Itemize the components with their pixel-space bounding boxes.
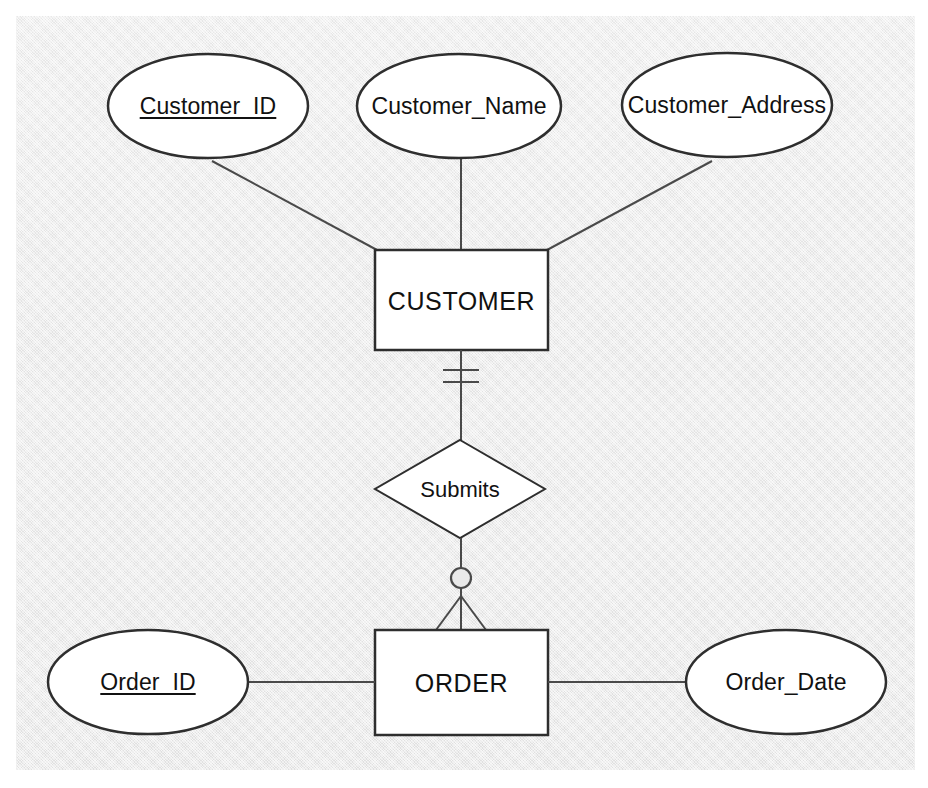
attribute-ellipse-order-id[interactable]	[48, 630, 248, 734]
cardinality-crowsfoot-left-prong	[436, 596, 461, 630]
entity-box-customer[interactable]	[375, 250, 548, 350]
cardinality-zero-circle	[451, 568, 471, 588]
edge-customer-address-to-customer	[547, 161, 712, 250]
attribute-ellipse-customer-name[interactable]	[357, 54, 561, 158]
entity-box-order[interactable]	[375, 630, 548, 735]
attribute-ellipse-order-date[interactable]	[686, 630, 886, 734]
cardinality-crowsfoot-right-prong	[461, 596, 486, 630]
diagram-vector-layer	[0, 0, 928, 788]
relationship-diamond-submits[interactable]	[375, 440, 545, 538]
attribute-ellipse-customer-id[interactable]	[108, 54, 308, 158]
edge-customer-id-to-customer	[212, 161, 377, 250]
attribute-ellipse-customer-address[interactable]	[622, 53, 832, 157]
er-diagram-page: Customer_ID Customer_Name Customer_Addre…	[0, 0, 928, 788]
